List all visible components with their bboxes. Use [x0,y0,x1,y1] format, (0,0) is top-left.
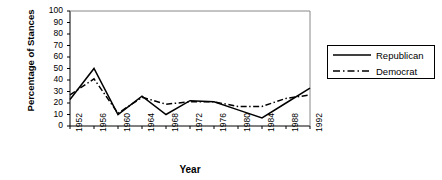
y-tick-label: 20 [37,98,63,107]
legend-item-republican: Republican [328,47,434,63]
y-tick-label: 40 [37,75,63,84]
x-tick-label: 1988 [290,104,300,132]
y-tick-label: 90 [37,18,63,27]
y-tick-label: 60 [37,52,63,61]
x-tick-label: 1992 [314,104,324,132]
chart-figure: Percentage of Stances Year 1009080706050… [0,0,442,180]
legend-item-democrat: Democrat [328,63,434,79]
x-tick-label: 1960 [122,104,132,132]
x-tick-label: 1968 [170,104,180,132]
legend-label-democrat: Democrat [376,66,417,77]
x-tick-label: 1964 [146,104,156,132]
y-tick-label: 0 [37,121,63,130]
plot-area [0,0,442,180]
x-tick-label: 1984 [266,104,276,132]
y-tick-label: 70 [37,41,63,50]
y-tick-label: 30 [37,87,63,96]
y-tick-label: 10 [37,110,63,119]
y-tick-label: 50 [37,64,63,73]
x-tick-label: 1976 [218,104,228,132]
x-tick-label: 1980 [242,104,252,132]
legend-swatch-solid-icon [332,47,372,63]
legend-label-republican: Republican [376,50,424,61]
legend: Republican Democrat [327,45,435,79]
x-tick-label: 1952 [74,104,84,132]
x-tick-label: 1972 [194,104,204,132]
y-tick-label: 80 [37,29,63,38]
y-tick-label: 100 [37,6,63,15]
legend-swatch-dashdot-icon [332,63,372,79]
x-tick-label: 1956 [98,104,108,132]
